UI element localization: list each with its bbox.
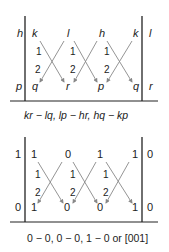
step-label: 1 — [36, 46, 42, 57]
top-row-label: l — [67, 27, 70, 39]
bottom-row-label: q — [133, 80, 140, 92]
step-label: 2 — [70, 187, 76, 198]
bottom-row-value: 1 — [31, 201, 37, 213]
symbolic-formula: kr − lq, lp − hr, hq − kp — [24, 109, 128, 121]
cross-arrows — [38, 162, 132, 203]
step-label: 1 — [70, 169, 76, 180]
top-row-label: l — [149, 27, 152, 39]
top-row-label: h — [99, 27, 105, 39]
numeric-formula: 0 − 0, 0 − 0, 1 − 0 or [001] — [27, 232, 148, 244]
step-label: 1 — [35, 169, 41, 180]
bottom-row-value: 0 — [64, 201, 70, 213]
step-label: 2 — [70, 64, 76, 75]
zone-axis-diagram: h k l h k l p q r p q r 1 2 1 2 1 2 kr −… — [0, 0, 169, 252]
cross-arrows — [40, 41, 132, 82]
top-row-value: 0 — [147, 148, 153, 160]
bottom-row-value: 1 — [132, 201, 138, 213]
step-label: 2 — [103, 187, 109, 198]
bottom-row-label: r — [66, 80, 71, 92]
bottom-row-value: 0 — [15, 201, 21, 213]
bottom-row-label: p — [97, 80, 104, 92]
step-label: 2 — [104, 64, 110, 75]
top-row-label: k — [32, 27, 38, 39]
bottom-row-label: r — [149, 80, 154, 92]
top-row-value: 1 — [15, 148, 21, 160]
bottom-row-label: p — [15, 80, 22, 92]
bottom-row-value: 0 — [97, 201, 103, 213]
top-row-label: k — [133, 27, 139, 39]
step-label: 2 — [35, 64, 41, 75]
bottom-row-label: q — [32, 80, 39, 92]
step-label: 1 — [70, 46, 76, 57]
step-label: 2 — [35, 187, 41, 198]
step-label: 1 — [103, 169, 109, 180]
symbolic-diagram: h k l h k l p q r p q r 1 2 1 2 1 2 kr −… — [10, 16, 158, 121]
top-row-label: h — [17, 27, 23, 39]
numeric-diagram: 1 1 0 1 1 0 0 1 0 0 1 0 1 2 1 2 1 2 0 − … — [10, 137, 158, 244]
top-row-value: 1 — [31, 148, 37, 160]
top-row-value: 0 — [65, 148, 71, 160]
bottom-row-value: 0 — [147, 201, 153, 213]
top-row-value: 1 — [97, 148, 103, 160]
step-label: 1 — [104, 46, 110, 57]
top-row-value: 1 — [132, 148, 138, 160]
